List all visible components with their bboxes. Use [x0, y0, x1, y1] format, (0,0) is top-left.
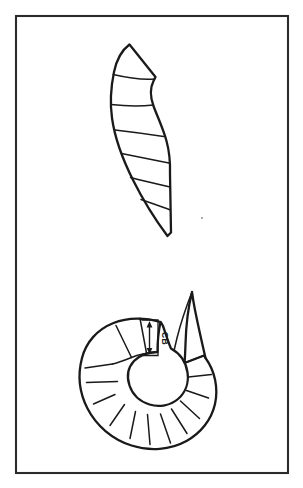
cb-label: CB: [160, 332, 170, 345]
lower-shell-group: CB: [80, 292, 217, 449]
upper-shell-group: [111, 45, 203, 237]
spiral-septum-4: [87, 382, 118, 383]
scan-speck: [201, 217, 203, 219]
figure-root: CB: [0, 0, 303, 488]
shell-figure-svg: CB: [0, 0, 303, 488]
